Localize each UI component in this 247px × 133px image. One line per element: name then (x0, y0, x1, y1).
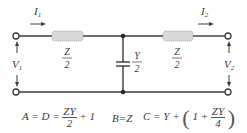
equation-c-fraction: ZY 4 (211, 106, 225, 129)
equation-c-denominator: 4 (211, 118, 225, 129)
output-terminal-top (225, 33, 231, 39)
equation-a-d-lhs: A = D = (22, 110, 60, 122)
series-left-denominator: 2 (65, 59, 70, 70)
equation-c-lhs: C = Y + (143, 110, 180, 122)
voltage-label-input: V1 (12, 58, 22, 72)
shunt-denominator: 2 (135, 63, 140, 74)
equation-a-d-denominator: 2 (62, 118, 76, 129)
input-terminal-top (13, 33, 19, 39)
equation-c-open-paren: ( (182, 105, 189, 130)
series-impedance-left (52, 31, 83, 41)
equation-c-close-paren: ) (228, 105, 235, 130)
series-left-numerator: Z (64, 46, 70, 57)
voltage-label-output: V2 (224, 58, 235, 72)
equation-a-d: A = D = ZY 2 + 1 (22, 106, 95, 129)
equation-a-d-rhs: + 1 (79, 110, 95, 122)
shunt-numerator: Y (134, 50, 141, 61)
current-arrow-input-icon (30, 22, 46, 26)
equation-a-d-fraction: ZY 2 (62, 106, 76, 129)
current-label-input: I1 (33, 5, 41, 19)
abcd-equations: A = D = ZY 2 + 1 B=Z C = Y + ( 1 + ZY 4 … (0, 104, 247, 133)
equation-c-inner: 1 + (192, 110, 208, 122)
equation-b: B=Z (112, 112, 132, 124)
current-arrow-output-icon (198, 22, 214, 26)
equation-c: C = Y + ( 1 + ZY 4 ) (143, 106, 235, 129)
series-right-denominator: 2 (175, 59, 180, 70)
output-terminal-bottom (225, 89, 231, 95)
series-impedance-right (163, 31, 193, 41)
current-label-output: I2 (200, 5, 209, 19)
input-terminal-bottom (13, 89, 19, 95)
series-right-numerator: Z (174, 46, 180, 57)
